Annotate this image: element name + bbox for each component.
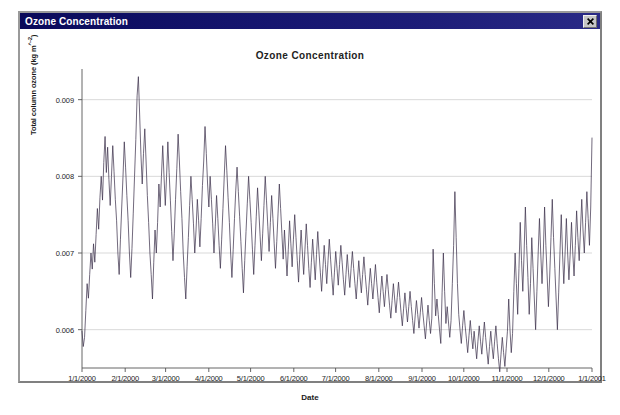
gridlines — [82, 100, 592, 330]
chart-figure: Ozone Concentration Total column ozone (… — [20, 29, 600, 383]
axis-lines — [82, 69, 592, 368]
close-button[interactable] — [583, 15, 597, 28]
plot-canvas — [20, 29, 600, 383]
x-axis-title: Date — [20, 393, 600, 402]
window-titlebar: Ozone Concentration — [20, 13, 600, 29]
window-client-area: Ozone Concentration Total column ozone (… — [20, 29, 600, 381]
window-title: Ozone Concentration — [25, 16, 128, 27]
ozone-series-line — [82, 77, 592, 372]
close-icon — [587, 18, 594, 25]
chart-window: Ozone Concentration Ozone Concentration … — [18, 11, 602, 383]
